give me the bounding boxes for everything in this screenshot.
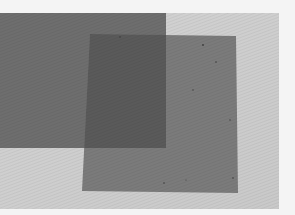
photo-canvas xyxy=(0,0,295,215)
photo-scene xyxy=(0,0,295,215)
texture xyxy=(0,13,279,209)
